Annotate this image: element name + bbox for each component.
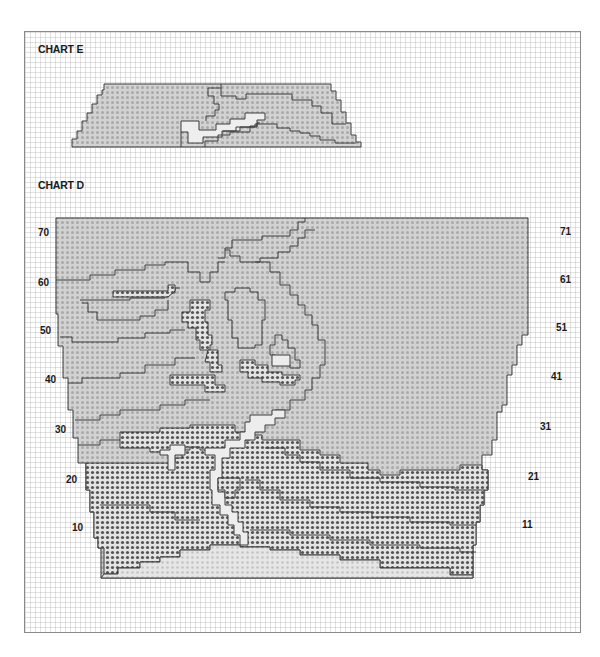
chart-e-graphic <box>72 84 361 147</box>
chart-d-graphic <box>56 218 528 578</box>
charts-graphic <box>0 0 600 657</box>
